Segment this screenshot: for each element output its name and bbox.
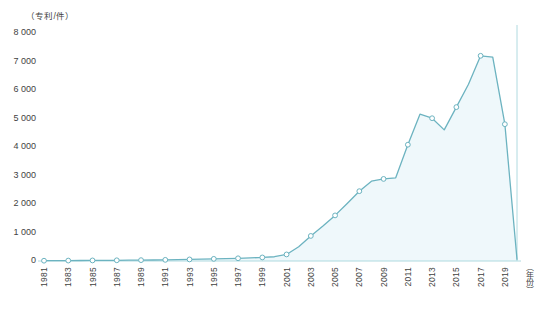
data-point-marker [90, 258, 95, 263]
x-axis-tick-label: 1989 [136, 267, 146, 287]
x-axis-tick-label: 2015 [451, 267, 461, 287]
data-point-marker [381, 177, 386, 182]
data-point-marker [66, 258, 71, 263]
x-axis-tick-label: 1987 [112, 267, 122, 287]
chart-container: （专利/件） （年份） 8 0007 0006 0005 0004 0003 0… [0, 0, 541, 310]
data-point-marker [308, 234, 313, 239]
x-axis-tick-label: 1997 [233, 267, 243, 287]
data-point-marker [454, 105, 459, 110]
x-axis-tick-label: 2013 [427, 267, 437, 287]
data-point-marker [405, 142, 410, 147]
x-axis-tick-label: 1985 [88, 267, 98, 287]
data-point-marker [163, 257, 168, 262]
data-point-marker [187, 257, 192, 262]
x-axis-tick-label: 2019 [500, 267, 510, 287]
y-axis-tick-label: 5 000 [2, 113, 36, 123]
line-area-plot [0, 0, 541, 310]
data-point-marker [430, 116, 435, 121]
y-axis-tick-label: 8 000 [2, 27, 36, 37]
y-axis-tick-label: 1 000 [2, 227, 36, 237]
data-point-marker [139, 258, 144, 263]
x-axis-tick-label: 1993 [185, 267, 195, 287]
data-point-marker [211, 256, 216, 261]
data-point-marker [236, 256, 241, 261]
data-point-marker [260, 255, 265, 260]
data-point-marker [357, 189, 362, 194]
x-axis-tick-label: 1981 [39, 267, 49, 287]
y-axis-tick-label: 7 000 [2, 56, 36, 66]
data-point-marker [42, 258, 47, 263]
x-axis-tick-label: 2001 [282, 267, 292, 287]
x-axis-tick-label: 2007 [354, 267, 364, 287]
data-point-marker [502, 122, 507, 127]
area-fill [44, 56, 517, 261]
y-axis-tick-label: 2 000 [2, 198, 36, 208]
x-axis-tick-label: 2009 [379, 267, 389, 287]
x-axis-tick-label: 2017 [476, 267, 486, 287]
data-point-marker [114, 258, 119, 263]
x-axis-tick-label: 1983 [63, 267, 73, 287]
y-axis-tick-label: 3 000 [2, 170, 36, 180]
y-axis-tick-label: 6 000 [2, 84, 36, 94]
data-point-marker [478, 53, 483, 58]
x-axis-tick-label: 1991 [160, 267, 170, 287]
data-point-marker [333, 213, 338, 218]
data-point-marker [284, 252, 289, 257]
x-axis-tick-label: 1999 [257, 267, 267, 287]
x-axis-tick-label: 2003 [306, 267, 316, 287]
x-axis-tick-label: 1995 [209, 267, 219, 287]
y-axis-tick-label: 4 000 [2, 141, 36, 151]
x-axis-tick-label: 2005 [330, 267, 340, 287]
x-axis-tick-label: 2011 [403, 267, 413, 286]
y-axis-tick-label: 0 [2, 255, 36, 265]
